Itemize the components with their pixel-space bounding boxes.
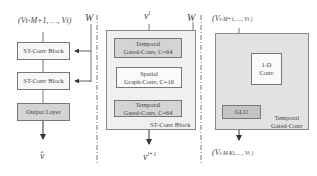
temporal-gated-conv-label: TemporalGated-Conv bbox=[271, 114, 303, 130]
1d-conv-block: 1-DConv bbox=[251, 53, 282, 85]
temporal-gated-conv-1: TemporalGated-Conv, C=64 bbox=[114, 38, 182, 58]
right-input-label: (Vt-M+1, …, Vt ) bbox=[212, 14, 252, 23]
temporal-gated-conv-2: TemporalGated-Conv, C=64 bbox=[114, 100, 182, 117]
left-w-label: W bbox=[85, 12, 93, 23]
left-input-label: (Vt-M+1, …, Vt) bbox=[18, 16, 71, 25]
middle-w-label: W bbox=[187, 12, 195, 23]
glu-block: GLU bbox=[222, 105, 261, 119]
right-output-label: (Vt-M-Kt, …, Vt ) bbox=[212, 148, 253, 157]
middle-input-label: vl bbox=[144, 10, 150, 21]
st-conv-block-label: ST-Conv Block bbox=[150, 121, 190, 129]
middle-output-label: vl+1 bbox=[143, 151, 156, 162]
output-layer-block: Output Layer bbox=[17, 103, 70, 121]
st-conv-block-1: ST-Conv Block bbox=[17, 42, 70, 60]
spatial-graph-conv: SpatialGraph-Conv, C=16 bbox=[116, 67, 182, 88]
left-output-label: v̂ bbox=[40, 150, 44, 161]
st-conv-block-2: ST-Conv Block bbox=[17, 72, 70, 90]
